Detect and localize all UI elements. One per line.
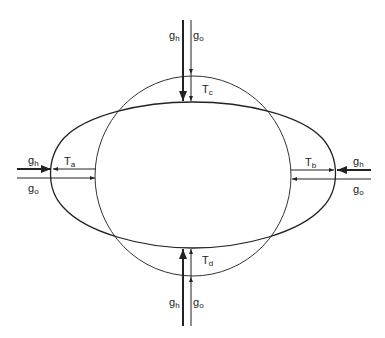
circle-shape <box>95 76 291 276</box>
diagram-canvas <box>0 0 385 338</box>
label-top-go: go <box>193 30 204 43</box>
label-top-Tc: Tc <box>202 84 213 97</box>
ellipse-shape <box>51 102 336 248</box>
label-bottom-go: go <box>193 297 204 310</box>
label-right-Tb: Tb <box>305 157 316 170</box>
label-right-gh: gh <box>353 156 364 169</box>
label-top-gh: gh <box>169 30 180 43</box>
label-left-Ta: Ta <box>64 156 75 169</box>
label-bottom-gh: gh <box>169 297 180 310</box>
label-left-go: go <box>28 183 39 196</box>
label-right-go: go <box>353 184 364 197</box>
label-left-gh: gh <box>28 155 39 168</box>
label-bottom-Td: Td <box>202 255 213 268</box>
